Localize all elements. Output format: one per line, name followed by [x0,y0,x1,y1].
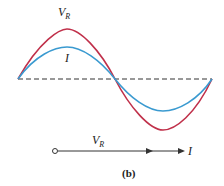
current-arrowhead [178,148,185,154]
phasor-current-label: I [188,144,192,159]
phasor-origin [53,149,58,154]
phasor-voltage-label: VR [92,133,104,148]
current-wave-label: I [65,51,69,66]
voltage-arrowhead [146,148,153,154]
figure-caption: (b) [122,167,135,179]
voltage-wave-label: VR [58,5,70,20]
